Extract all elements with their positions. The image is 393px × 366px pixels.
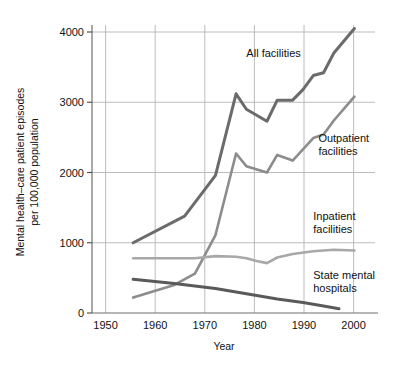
ytick-label-2000: 2000 <box>60 167 84 179</box>
ytick-label-4000: 4000 <box>60 26 84 38</box>
y-axis-ticks <box>87 32 92 313</box>
line-chart: 4000 3000 2000 1000 0 1950 1960 1970 198… <box>0 0 393 366</box>
series-label-state-mental-hospitals-line1: State mental <box>313 269 375 281</box>
series-line-outpatient-facilities <box>133 97 354 298</box>
series-label-inpatient-facilities-line2: facilities <box>313 223 353 235</box>
x-axis-title: Year <box>213 340 235 352</box>
ytick-label-3000: 3000 <box>60 96 84 108</box>
xtick-label-1990: 1990 <box>292 319 316 331</box>
y-axis-title-line2: per 100,000 population <box>28 118 40 226</box>
series-label-inpatient-facilities-line1: Inpatient <box>313 210 355 222</box>
xtick-label-1960: 1960 <box>143 319 167 331</box>
y-axis-title-line1: Mental health–care patient episodes <box>14 88 26 257</box>
ytick-label-0: 0 <box>78 307 84 319</box>
series-label-all-facilities: All facilities <box>246 47 301 59</box>
xtick-label-1950: 1950 <box>93 319 117 331</box>
xtick-label-2000: 2000 <box>341 319 365 331</box>
series-label-outpatient-facilities-line1: Outpatient <box>318 132 369 144</box>
series-label-outpatient-facilities-line2: facilities <box>318 145 358 157</box>
series-label-state-mental-hospitals-line2: hospitals <box>313 282 357 294</box>
xtick-label-1980: 1980 <box>242 319 266 331</box>
data-series-group <box>133 28 354 308</box>
ytick-label-1000: 1000 <box>60 237 84 249</box>
chart-figure: 4000 3000 2000 1000 0 1950 1960 1970 198… <box>0 0 393 366</box>
y-axis-tick-labels: 4000 3000 2000 1000 0 <box>60 26 84 319</box>
x-axis-tick-labels: 1950 1960 1970 1980 1990 2000 <box>93 319 365 331</box>
series-line-state-mental-hospitals <box>133 279 339 309</box>
series-line-inpatient-facilities <box>133 250 354 263</box>
xtick-label-1970: 1970 <box>193 319 217 331</box>
